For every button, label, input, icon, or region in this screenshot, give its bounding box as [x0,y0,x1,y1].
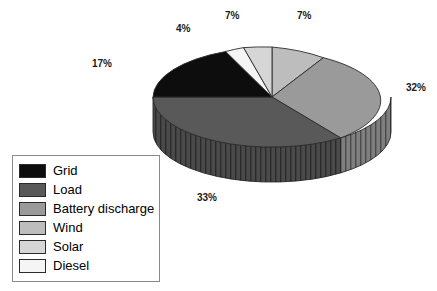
legend-item-battery-discharge: Battery discharge [19,199,153,218]
pct-label-wind: 7% [297,10,311,21]
legend-item-diesel: Diesel [19,256,153,275]
legend-swatch-solar [19,240,46,254]
pie-top-face [153,47,381,147]
pct-label-grid: 17% [92,58,112,69]
legend-label-load: Load [53,183,82,196]
legend-swatch-load [19,183,46,197]
legend-label-grid: Grid [53,164,78,177]
legend-swatch-diesel [19,259,46,273]
legend-swatch-battery-discharge [19,202,46,216]
chart-legend: Grid Load Battery discharge Wind Solar D… [12,155,160,282]
pct-label-diesel: 4% [176,23,190,34]
legend-item-load: Load [19,180,153,199]
legend-item-wind: Wind [19,218,153,237]
legend-label-battery-discharge: Battery discharge [53,202,154,215]
pie-chart-figure: 4% 7% 7% 32% 33% 17% Grid Load Battery d… [0,0,437,291]
pct-label-battery-discharge: 32% [406,82,426,93]
pct-label-solar: 7% [225,10,239,21]
legend-label-solar: Solar [53,240,83,253]
pct-label-load: 33% [197,192,217,203]
legend-item-grid: Grid [19,161,153,180]
legend-label-diesel: Diesel [53,259,89,272]
legend-label-wind: Wind [53,221,83,234]
legend-swatch-grid [19,164,46,178]
legend-swatch-wind [19,221,46,235]
legend-item-solar: Solar [19,237,153,256]
